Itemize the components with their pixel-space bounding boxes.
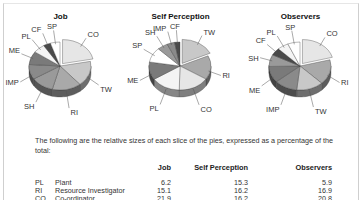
leader-line: [157, 36, 164, 47]
observers-value: 20.8: [318, 195, 332, 200]
slice-label-sh: SH: [24, 102, 34, 111]
slice-co: [63, 40, 93, 64]
slice-label-cf: CF: [256, 36, 266, 45]
leader-line: [21, 54, 33, 59]
leader-line: [320, 37, 325, 46]
slice-label-imp: IMP: [153, 24, 166, 33]
role-abbr: CO: [35, 195, 46, 200]
leader-line: [54, 30, 56, 44]
slice-label-co: CO: [326, 29, 337, 38]
slice-label-imp: IMP: [266, 105, 279, 114]
table-row: CO Co-ordinator 21.9 16.2 20.8: [35, 195, 335, 200]
leader-line: [43, 33, 48, 46]
slice-label-tw: TW: [100, 85, 113, 94]
slice-co: [302, 40, 332, 64]
slice-label-cf: CF: [31, 25, 41, 34]
pie-graphic: TWRICOPLMESPSHIMPCF: [120, 0, 241, 122]
leader-line: [176, 30, 177, 44]
slice-label-sp: SP: [285, 23, 295, 32]
leader-line: [32, 40, 40, 50]
leader-line: [277, 36, 284, 48]
leader-line: [81, 38, 86, 46]
role-name: Co-ordinator: [55, 195, 95, 200]
slice-label-pl: PL: [149, 104, 158, 113]
pie-chart-observers: Observers CORITWIMPMESHCFPLSP: [240, 0, 361, 122]
slice-label-me: ME: [9, 46, 20, 55]
slice-label-co: CO: [201, 105, 212, 114]
slice-label-cf: CF: [170, 22, 180, 31]
slice-label-sp: SP: [132, 41, 142, 50]
column-header-observers: Observers: [295, 163, 332, 172]
leader-line: [267, 44, 277, 52]
pie-graphic: CORITWIMPMESHCFPLSP: [240, 0, 361, 122]
leader-line: [144, 49, 155, 55]
leader-line: [292, 31, 294, 45]
slice-label-pl: PL: [267, 28, 276, 37]
slice-label-tw: TW: [203, 28, 216, 37]
slice-label-ri: RI: [341, 78, 349, 87]
slice-label-ri: RI: [222, 71, 230, 80]
column-header-self-perception: Self Perception: [194, 163, 248, 172]
pie-chart-job: Job COTWRISHIMPMEPLCFSP: [0, 0, 121, 122]
slice-label-ri: RI: [71, 108, 79, 117]
slice-label-imp: IMP: [5, 78, 18, 87]
self-value: 16.2: [234, 195, 248, 200]
job-value: 21.9: [157, 195, 171, 200]
intro-paragraph: The following are the relative sizes of …: [35, 136, 335, 155]
slice-label-sp: SP: [47, 22, 57, 31]
column-header-job: Job: [158, 163, 171, 172]
slice-label-pl: PL: [21, 32, 30, 41]
slice-label-me: ME: [127, 76, 138, 85]
slice-label-me: ME: [249, 86, 260, 95]
leader-line: [168, 32, 172, 45]
pie-charts-row: Job COTWRISHIMPMEPLCFSP Self Perception …: [0, 0, 363, 122]
slice-label-sh: SH: [248, 54, 258, 63]
leader-line: [197, 36, 202, 45]
slice-label-tw: TW: [315, 107, 328, 116]
pie-graphic: COTWRISHIMPMEPLCFSP: [0, 0, 121, 122]
pie-chart-self-perception: Self Perception TWRICOPLMESPSHIMPCF: [120, 0, 241, 122]
slice-label-co: CO: [88, 30, 99, 39]
